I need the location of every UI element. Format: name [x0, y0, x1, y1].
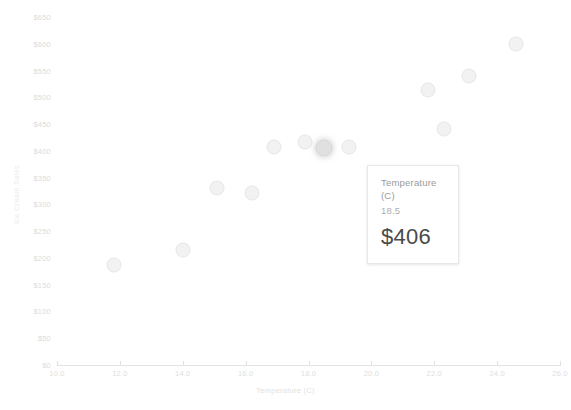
x-tick-label: 26.0	[552, 369, 567, 378]
y-tick-label: $500	[5, 93, 51, 102]
x-tick-label: 16.0	[238, 369, 253, 378]
y-tick-label: $0	[5, 361, 51, 370]
scatter-chart: $0$50$100$150$200$250$300$350$400$450$50…	[0, 0, 571, 410]
y-tick-label: $50	[5, 334, 51, 343]
x-tick-label: 14.0	[175, 369, 190, 378]
data-point[interactable]	[436, 122, 451, 137]
y-tick-label: $100	[5, 307, 51, 316]
data-point[interactable]	[508, 36, 523, 51]
tooltip-title: Temperature (C)	[381, 177, 445, 203]
data-point[interactable]	[342, 139, 357, 154]
x-tick-label: 12.0	[112, 369, 127, 378]
plot-area	[57, 10, 560, 365]
data-point[interactable]	[461, 68, 476, 83]
x-tick-label: 24.0	[489, 369, 504, 378]
x-axis-line	[57, 365, 561, 366]
data-point-highlighted[interactable]	[316, 139, 333, 156]
y-axis-tick-labels: $0$50$100$150$200$250$300$350$400$450$50…	[0, 0, 51, 410]
x-axis-title: Temperature (C)	[0, 386, 571, 395]
tooltip: Temperature (C) 18.5 $406	[367, 165, 459, 264]
data-point[interactable]	[420, 83, 435, 98]
y-tick-label: $450	[5, 120, 51, 129]
x-tick-label: 20.0	[364, 369, 379, 378]
data-point[interactable]	[106, 257, 121, 272]
x-tick-label: 10.0	[49, 369, 64, 378]
tooltip-value: $406	[381, 223, 445, 251]
x-tick-mark	[560, 361, 561, 365]
x-tick-label: 22.0	[427, 369, 442, 378]
y-tick-label: $600	[5, 39, 51, 48]
y-tick-label: $550	[5, 66, 51, 75]
y-tick-label: $200	[5, 253, 51, 262]
y-axis-title: Ice Cream Sales	[12, 145, 21, 245]
data-point[interactable]	[298, 134, 313, 149]
x-tick-label: 18.0	[301, 369, 316, 378]
data-point[interactable]	[266, 139, 281, 154]
data-point[interactable]	[175, 242, 190, 257]
tooltip-subvalue: 18.5	[381, 204, 445, 218]
data-point[interactable]	[244, 185, 259, 200]
y-tick-label: $650	[5, 13, 51, 22]
y-tick-label: $150	[5, 280, 51, 289]
data-point[interactable]	[210, 181, 225, 196]
